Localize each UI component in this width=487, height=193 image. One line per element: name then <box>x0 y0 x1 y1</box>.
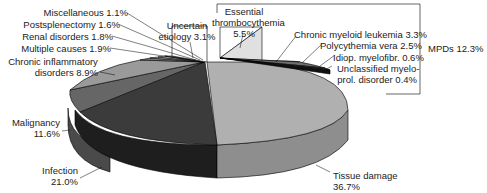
label-chronic-inflammatory: Chronic inflammatory disorders 8.9% <box>8 56 98 78</box>
label-multiple-causes: Multiple causes 1.9% <box>16 43 111 54</box>
label-uncertain-line1: Uncertain <box>157 20 217 31</box>
label-et-line1: Essential <box>212 6 276 17</box>
label-tissue-line2: 36.7% <box>333 181 398 192</box>
label-tissue-damage: Tissue damage 36.7% <box>333 170 398 192</box>
label-cml: Chronic myeloid leukemia 3.3% <box>294 29 427 40</box>
label-malignancy: Malignancy 11.6% <box>8 117 60 139</box>
label-uncertain-line2: etiology 3.1% <box>157 31 217 42</box>
pie-top <box>70 26 348 145</box>
label-miscellaneous: Miscellaneous 1.1% <box>40 7 128 18</box>
label-uncertain-etiology: Uncertain etiology 3.1% <box>157 20 217 42</box>
label-essential-thrombocythemia: Essential thrombocythemia 5.5% <box>212 6 276 39</box>
label-et-line2: thrombocythemia <box>212 17 276 28</box>
label-renal-disorders: Renal disorders 1.8% <box>16 31 113 42</box>
label-ump-line1: Unclassified myelo- <box>337 63 417 74</box>
label-postsplenectomy: Postsplenectomy 1.6% <box>16 19 120 30</box>
label-infection: Infection 21.0% <box>28 165 78 187</box>
label-inf-line2: 21.0% <box>28 176 78 187</box>
label-polycythemia-vera: Polycythemia vera 2.5% <box>320 40 422 51</box>
label-mpds-total: MPDs 12.3% <box>428 43 483 54</box>
label-chronic-line2: disorders 8.9% <box>8 67 98 78</box>
label-malig-line1: Malignancy <box>8 117 60 128</box>
label-et-line3: 5.5% <box>212 28 276 39</box>
label-chronic-line1: Chronic inflammatory <box>8 56 98 67</box>
label-inf-line1: Infection <box>28 165 78 176</box>
label-tissue-line1: Tissue damage <box>333 170 398 181</box>
label-unclassified-mpd: Unclassified myelo- prol. disorder 0.4% <box>337 63 417 85</box>
label-myelofibrosis: Idiop. myelofibr. 0.6% <box>333 52 424 63</box>
label-malig-line2: 11.6% <box>8 128 60 139</box>
label-ump-line2: prol. disorder 0.4% <box>337 74 417 85</box>
